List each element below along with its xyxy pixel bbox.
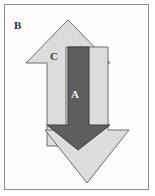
region-label-c: C	[50, 51, 58, 62]
figure-root: B C A	[0, 0, 155, 196]
region-label-b: B	[14, 20, 22, 31]
region-label-a: A	[71, 89, 79, 100]
